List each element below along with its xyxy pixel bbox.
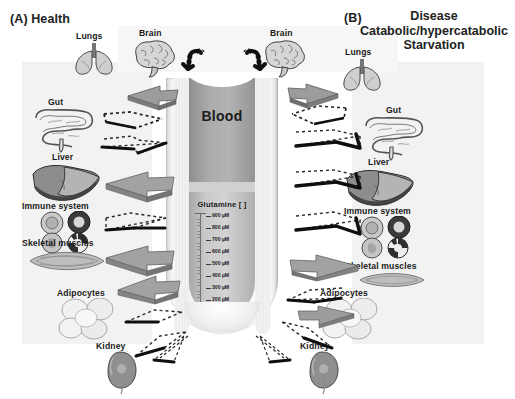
- flux-arrow-brain-right-hook: [238, 46, 272, 80]
- flux-arrow-muscle-right-solid: [286, 252, 360, 282]
- scale-minor-tick: [197, 219, 201, 220]
- label-lungs-left: Lungs: [76, 31, 103, 41]
- scale-tick-label: 400 µM: [212, 272, 229, 278]
- label-liver-left: Liver: [52, 152, 73, 162]
- scale-tick-mark: [206, 276, 211, 277]
- scale-cap-top: [195, 213, 206, 214]
- scale-minor-tick: [197, 249, 201, 250]
- flux-arrow-adipocytes-left-solid: [116, 272, 182, 306]
- flux-arrow-lungs-right-dotted: [288, 104, 350, 128]
- scale-minor-tick: [197, 222, 201, 223]
- scale-tick-mark: [206, 300, 211, 301]
- kidney-icon-right: [302, 350, 342, 396]
- scale-minor-tick: [197, 294, 201, 295]
- panel-b-title-line3: Starvation: [358, 38, 510, 53]
- scale-minor-tick: [197, 279, 201, 280]
- scale-minor-tick: [197, 273, 201, 274]
- scale-minor-tick: [197, 291, 201, 292]
- lungs-icon-left: [72, 41, 116, 77]
- scale-minor-tick: [197, 270, 201, 271]
- scale-tick-mark: [206, 252, 211, 253]
- flux-arrow-gut-right-beaded: [290, 128, 364, 160]
- flux-arrow-liver-left-solid: [104, 168, 176, 204]
- scale-tick-mark: [206, 216, 211, 217]
- scale-tick-label: 200 µM: [212, 296, 229, 302]
- blood-fill: [189, 78, 255, 190]
- scale-minor-tick: [197, 231, 201, 232]
- scale-tick-label: 500 µM: [212, 260, 229, 266]
- flux-arrow-kidney-right-connector: [252, 334, 304, 366]
- brain-icon-left: [128, 38, 180, 78]
- label-lungs-right: Lungs: [345, 47, 372, 57]
- flux-arrow-brain-left-hook: [176, 46, 210, 80]
- blood-label: Blood: [166, 108, 278, 124]
- label-brain-right: Brain: [270, 28, 293, 38]
- label-immune-left: Immune system: [22, 201, 89, 211]
- glutamine-label: Glutamine [ ]: [166, 200, 278, 209]
- scale-tick-mark: [206, 228, 211, 229]
- panel-b-title: Disease Catabolic/hypercatabolic Starvat…: [358, 9, 510, 53]
- blood-test-tube: Blood Glutamine [ ] 900 µM800 µM700 µM60…: [166, 78, 278, 334]
- scale-tick-label: 900 µM: [212, 212, 229, 218]
- scale-tick-mark: [206, 240, 211, 241]
- panel-a-title: (A) Health: [10, 12, 70, 26]
- scale-minor-tick: [197, 261, 201, 262]
- flux-arrow-brain-left-solid: [126, 84, 180, 110]
- scale-minor-tick: [197, 243, 201, 244]
- scale-minor-tick: [197, 225, 201, 226]
- lungs-icon-right: [340, 57, 384, 93]
- scale-minor-tick: [197, 267, 201, 268]
- scale-tick-label: 800 µM: [212, 224, 229, 230]
- scale-tick-mark: [206, 288, 211, 289]
- flux-arrow-kidney-left-connector: [140, 334, 192, 366]
- label-muscle-left: Skeletal muscles: [22, 238, 94, 248]
- flux-arrow-adipocytes-left-beaded: [122, 306, 186, 332]
- liver-icon-left: [30, 162, 102, 204]
- scale-minor-tick: [197, 258, 201, 259]
- immune-cells-icon-right: [358, 216, 416, 260]
- gut-icon-right: [358, 114, 428, 162]
- flux-arrow-liver-right-beaded: [290, 168, 364, 200]
- gut-icon-left: [28, 106, 98, 154]
- label-liver-right: Liver: [368, 157, 389, 167]
- label-adipocytes-left: Adipocytes: [57, 288, 105, 298]
- scale-tick-label: 700 µM: [212, 236, 229, 242]
- glutamine-concentration-scale: 900 µM800 µM700 µM600 µM500 µM400 µM300 …: [192, 212, 234, 306]
- scale-tick-label: 600 µM: [212, 248, 229, 254]
- flux-arrow-immune-left-beaded: [100, 210, 172, 240]
- scale-minor-tick: [197, 297, 201, 298]
- muscle-icon-left: [28, 248, 106, 274]
- flux-arrow-immune-right-beaded: [290, 210, 364, 244]
- flux-arrow-gut-left-dotted: [100, 110, 166, 132]
- scale-tick-label: 300 µM: [212, 284, 229, 290]
- scale-minor-tick: [197, 234, 201, 235]
- panel-b-title-line1: Disease: [358, 9, 510, 24]
- scale-tick-mark: [206, 264, 211, 265]
- scale-minor-tick: [197, 285, 201, 286]
- blood-surface-wave: [189, 182, 255, 192]
- flux-arrow-liver-left-beaded: [98, 133, 170, 163]
- scale-minor-tick: [197, 255, 201, 256]
- adipocytes-icon-left: [58, 298, 120, 340]
- scale-minor-tick: [197, 282, 201, 283]
- flux-arrow-adipocytes-right-solid: [296, 304, 356, 330]
- muscle-icon-right: [358, 270, 426, 290]
- panel-b-title-line2: Catabolic/hypercatabolic: [358, 24, 510, 39]
- figure-canvas: (A) Health (B) Disease Catabolic/hyperca…: [0, 0, 515, 399]
- scale-minor-tick: [197, 237, 201, 238]
- label-brain-left: Brain: [139, 28, 162, 38]
- scale-minor-tick: [197, 246, 201, 247]
